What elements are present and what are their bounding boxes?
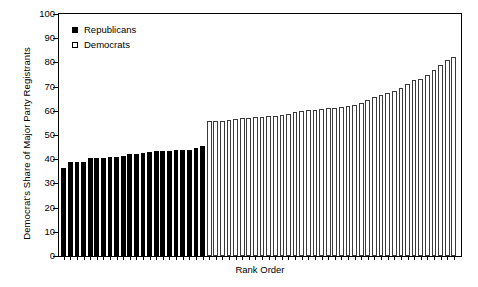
x-tick-mark <box>269 256 270 260</box>
x-tick-mark <box>163 256 164 260</box>
legend-item-republicans: Republicans <box>72 22 136 37</box>
legend-label: Democrats <box>84 39 130 50</box>
bar <box>405 84 410 256</box>
bar <box>114 157 119 256</box>
bar <box>68 162 73 256</box>
bar <box>438 65 443 256</box>
y-tick-label: 70 <box>44 80 55 93</box>
bar <box>359 103 364 256</box>
bar <box>306 110 311 256</box>
bar <box>286 114 291 256</box>
bar <box>313 110 318 256</box>
bar <box>332 108 337 256</box>
x-tick-mark <box>388 256 389 260</box>
x-tick-mark <box>328 256 329 260</box>
bar <box>108 157 113 256</box>
bar <box>392 91 397 256</box>
bar <box>180 150 185 256</box>
legend-label: Republicans <box>84 24 136 35</box>
bar <box>160 151 165 256</box>
bar <box>88 158 93 256</box>
x-tick-mark <box>447 256 448 260</box>
x-tick-mark <box>143 256 144 260</box>
x-tick-mark <box>169 256 170 260</box>
x-tick-mark <box>150 256 151 260</box>
bar <box>445 60 450 257</box>
x-tick-mark <box>361 256 362 260</box>
x-tick-mark <box>183 256 184 260</box>
bar <box>418 79 423 256</box>
x-tick-mark <box>130 256 131 260</box>
bar <box>432 70 437 256</box>
x-tick-mark <box>288 256 289 260</box>
x-tick-mark <box>282 256 283 260</box>
bar <box>94 158 99 256</box>
filled-square-icon <box>72 27 78 33</box>
y-axis-title: Democrat's Share of Major Party Registra… <box>18 0 36 287</box>
x-tick-mark <box>381 256 382 260</box>
y-tick-label: 90 <box>44 31 55 44</box>
x-tick-mark <box>427 256 428 260</box>
x-tick-mark <box>408 256 409 260</box>
x-tick-mark <box>229 256 230 260</box>
x-tick-mark <box>249 256 250 260</box>
x-tick-mark <box>189 256 190 260</box>
x-tick-mark <box>262 256 263 260</box>
y-tick-label: 10 <box>44 225 55 238</box>
bar <box>213 121 218 256</box>
x-tick-mark <box>414 256 415 260</box>
y-tick-label: 40 <box>44 152 55 165</box>
x-tick-mark <box>236 256 237 260</box>
bar <box>293 112 298 256</box>
bar <box>266 116 271 256</box>
y-tick-label: 20 <box>44 201 55 214</box>
x-tick-mark <box>70 256 71 260</box>
chart-figure: Democrat's Share of Major Party Registra… <box>0 0 478 287</box>
bar <box>253 117 258 256</box>
bar <box>75 162 80 256</box>
x-tick-mark <box>295 256 296 260</box>
bar <box>167 151 172 257</box>
bar <box>425 75 430 257</box>
bar <box>207 121 212 256</box>
bar <box>399 88 404 256</box>
x-tick-mark <box>136 256 137 260</box>
bar <box>134 154 139 256</box>
bar <box>365 100 370 256</box>
bar <box>194 148 199 256</box>
x-tick-mark <box>242 256 243 260</box>
x-tick-mark <box>401 256 402 260</box>
chart-legend: RepublicansDemocrats <box>72 22 136 52</box>
x-tick-mark <box>222 256 223 260</box>
bar <box>141 153 146 256</box>
x-tick-mark <box>322 256 323 260</box>
x-tick-mark <box>90 256 91 260</box>
legend-item-democrats: Democrats <box>72 37 136 52</box>
bar <box>121 156 126 256</box>
x-tick-mark <box>308 256 309 260</box>
bar <box>299 111 304 256</box>
bar <box>372 97 377 256</box>
bar <box>319 109 324 256</box>
x-tick-mark <box>156 256 157 260</box>
y-tick-label: 80 <box>44 55 55 68</box>
x-tick-mark <box>103 256 104 260</box>
x-tick-mark <box>176 256 177 260</box>
bar <box>326 108 331 256</box>
x-tick-mark <box>341 256 342 260</box>
bar <box>246 118 251 256</box>
bar <box>174 150 179 256</box>
x-tick-mark <box>441 256 442 260</box>
bar <box>273 116 278 256</box>
x-tick-mark <box>315 256 316 260</box>
bar <box>147 152 152 256</box>
bar <box>227 120 232 256</box>
bar <box>187 150 192 256</box>
x-tick-mark <box>203 256 204 260</box>
x-tick-mark <box>275 256 276 260</box>
x-tick-mark <box>355 256 356 260</box>
y-tick-label: 30 <box>44 176 55 189</box>
x-tick-mark <box>97 256 98 260</box>
x-tick-mark <box>64 256 65 260</box>
x-tick-mark <box>394 256 395 260</box>
